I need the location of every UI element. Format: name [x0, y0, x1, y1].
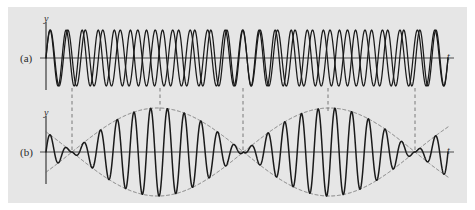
panel-b-y-axis-label: y [44, 108, 48, 118]
connector-lines-group [72, 88, 415, 150]
panel-b-envelope-lower [46, 152, 448, 196]
panel-b-t-axis-label: t [447, 146, 450, 156]
panel-a-y-axis-label: y [44, 14, 48, 24]
beats-figure: (a) (b) y t y t [0, 0, 475, 210]
panel-label-a: (a) [20, 53, 32, 64]
panel-label-b: (b) [20, 147, 33, 158]
panel-a-group [40, 22, 454, 90]
panel-b-envelope-upper [46, 108, 448, 152]
panel-b-group [40, 108, 454, 196]
waveform-canvas [0, 0, 475, 210]
panel-a-t-axis-label: t [447, 52, 450, 62]
